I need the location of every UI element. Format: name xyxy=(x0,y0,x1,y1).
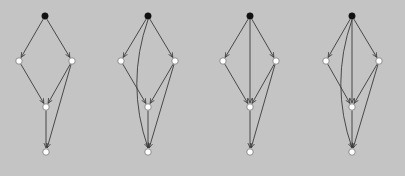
edge-T-R xyxy=(47,19,70,57)
node-T xyxy=(145,13,151,19)
hasse-diagrams xyxy=(0,0,405,176)
edge-L-M xyxy=(225,64,248,103)
edge-T-L xyxy=(21,19,43,57)
graph-2 xyxy=(118,13,178,155)
node-B xyxy=(349,149,355,155)
node-L xyxy=(118,58,124,64)
node-L xyxy=(16,58,22,64)
graph-1 xyxy=(16,13,75,155)
edge-T-L xyxy=(225,19,248,57)
diagram-canvas xyxy=(0,0,405,176)
edge-L-M xyxy=(123,64,146,103)
edge-R-B xyxy=(251,65,275,148)
node-M xyxy=(349,104,355,110)
edge-R-B xyxy=(47,65,71,148)
node-T xyxy=(247,13,253,19)
node-M xyxy=(145,104,151,110)
node-R xyxy=(69,58,75,64)
edge-R-M xyxy=(252,64,274,103)
node-L xyxy=(220,58,226,64)
node-M xyxy=(247,104,253,110)
edge-L-M xyxy=(21,64,44,103)
curved-edge-T-B xyxy=(137,20,148,148)
edge-T-R xyxy=(354,19,377,57)
node-T xyxy=(42,13,48,19)
graph-4 xyxy=(323,13,382,155)
node-R xyxy=(172,58,178,64)
graph-3 xyxy=(220,13,279,155)
edge-T-R xyxy=(150,19,173,57)
node-L xyxy=(323,58,329,64)
edge-R-M xyxy=(354,64,377,103)
node-R xyxy=(273,58,279,64)
node-T xyxy=(349,13,355,19)
curved-edge-T-B xyxy=(341,20,352,148)
edge-R-M xyxy=(48,64,70,103)
node-B xyxy=(247,149,253,155)
edge-T-R xyxy=(252,19,274,57)
edge-R-B xyxy=(149,65,174,148)
edge-R-M xyxy=(150,64,173,103)
edge-R-B xyxy=(353,65,378,148)
node-B xyxy=(43,149,49,155)
node-M xyxy=(43,104,49,110)
edge-L-M xyxy=(328,64,350,103)
node-R xyxy=(376,58,382,64)
node-B xyxy=(145,149,151,155)
